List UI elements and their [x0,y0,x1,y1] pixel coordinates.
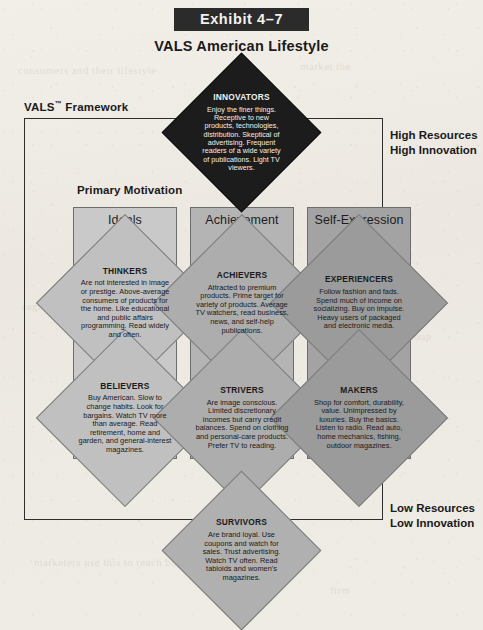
page-bleed-text: firm [330,584,351,596]
page-bleed-text: market the [300,60,351,72]
vals-framework-label-suffix: Framework [65,101,128,113]
segment-body-makers: Shop for comfort, durability, value. Uni… [311,399,407,450]
segment-text: STRIVERS Are image conscious. Limited di… [190,386,294,450]
exhibit-header: Exhibit 4–7 VALS American Lifestyle [0,0,483,54]
segment-body-experiencers: Follow fashion and fads. Spend much of i… [311,288,407,331]
segment-survivors: SURVIVORS Are brand loyal. Use coupons a… [185,494,298,607]
segment-text: SURVIVORS Are brand loyal. Use coupons a… [194,518,290,582]
exhibit-number-tag: Exhibit 4–7 [174,8,309,31]
segment-name-strivers: STRIVERS [194,386,290,396]
segment-text: BELIEVERS Buy American. Slow to change h… [73,382,177,455]
segment-name-survivors: SURVIVORS [198,518,286,528]
segment-text: MAKERS Shop for comfort, durability, val… [307,386,411,450]
segment-text: EXPERIENCERS Follow fashion and fads. Sp… [307,275,411,331]
segment-body-innovators: Enjoy the finer things. Receptive to new… [200,106,284,173]
segment-name-innovators: INNOVATORS [200,93,284,103]
vals-framework-label: VALS™ Framework [24,100,128,113]
page-bleed-text: consumers and their lifestyle [18,64,156,76]
segment-makers: MAKERS Shop for comfort, durability, val… [296,355,422,481]
low-innovation-line2: Low Innovation [390,516,475,531]
high-resources-label: High Resources High Innovation [390,128,478,157]
segment-text: INNOVATORS Enjoy the finer things. Recep… [196,93,288,173]
segment-strivers: STRIVERS Are image conscious. Limited di… [179,355,305,481]
segment-body-achievers: Attracted to premium products. Prime tar… [194,284,290,335]
segment-name-thinkers: THINKERS [77,267,173,277]
segment-innovators: INNOVATORS Enjoy the finer things. Recep… [185,76,298,189]
segment-name-experiencers: EXPERIENCERS [311,275,407,285]
segment-body-strivers: Are image conscious. Limited discretiona… [194,399,290,450]
segment-body-believers: Buy American. Slow to change habits. Loo… [77,394,173,454]
segment-text: ACHIEVERS Attracted to premium products.… [190,271,294,335]
primary-motivation-label: Primary Motivation [77,184,182,196]
segment-name-makers: MAKERS [311,386,407,396]
low-resources-line1: Low Resources [390,501,475,516]
segment-believers: BELIEVERS Buy American. Slow to change h… [62,355,188,481]
exhibit-title: VALS American Lifestyle [0,38,483,54]
trademark-symbol: ™ [55,100,62,107]
segment-text: THINKERS Are not interested in image or … [73,267,177,340]
low-resources-label: Low Resources Low Innovation [390,501,475,530]
segment-name-believers: BELIEVERS [77,382,173,392]
segment-body-survivors: Are brand loyal. Use coupons and watch f… [198,531,286,582]
high-innovation-line2: High Innovation [390,143,478,158]
segment-name-achievers: ACHIEVERS [194,271,290,281]
vals-framework-label-text: VALS [24,101,55,113]
high-resources-line1: High Resources [390,128,478,143]
segment-body-thinkers: Are not interested in image or prestige.… [77,279,173,339]
